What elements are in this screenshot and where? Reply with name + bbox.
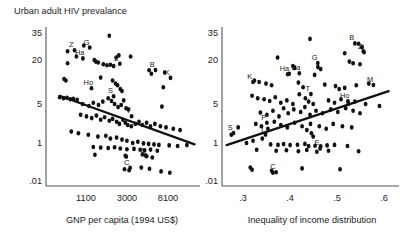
data-point (333, 143, 337, 148)
x-tick-right-3: .6 (380, 193, 388, 203)
hiv-prevalence-figure: Urban adult HIV prevalance352051.0111003… (0, 0, 403, 234)
data-point (303, 142, 307, 147)
data-point (116, 83, 120, 88)
data-point (79, 113, 83, 118)
point-label-right-13: C (270, 162, 276, 171)
data-point (90, 116, 94, 121)
data-point (168, 170, 172, 175)
data-point (254, 122, 258, 127)
data-point (303, 105, 307, 110)
point-label-left-3: Z (114, 54, 119, 63)
data-point (262, 97, 266, 102)
y-tick-left-3: 1 (37, 138, 42, 148)
point-label-left-9: E (141, 146, 146, 155)
point-label-left-2: Ha (75, 48, 85, 57)
data-point (112, 64, 116, 69)
data-point (178, 128, 182, 133)
data-point (69, 129, 73, 134)
data-point (164, 125, 168, 130)
data-point (86, 133, 90, 138)
y-tick-left-1: 20 (32, 55, 42, 65)
data-point (91, 145, 95, 150)
point-label-right-6: M (367, 75, 373, 84)
data-point (272, 120, 276, 125)
data-point (110, 99, 114, 104)
data-point (149, 147, 153, 152)
data-point (300, 166, 304, 171)
data-point (325, 143, 329, 148)
data-point (313, 73, 317, 78)
y-tick-right-0: 35 (208, 28, 218, 38)
data-point (269, 142, 273, 147)
point-label-left-8: T (126, 106, 131, 115)
data-point (271, 108, 275, 113)
data-point (109, 136, 113, 141)
data-point (150, 155, 154, 160)
data-point (315, 149, 319, 154)
data-point (105, 63, 109, 68)
data-point (103, 115, 107, 120)
data-point (111, 78, 115, 83)
data-point (97, 103, 101, 108)
data-point (260, 136, 264, 141)
data-point (301, 85, 305, 90)
data-point (308, 37, 312, 42)
data-point (350, 125, 354, 130)
chart-canvas: Urban adult HIV prevalance352051.0111003… (0, 0, 403, 234)
data-point (304, 96, 308, 101)
data-point (95, 113, 99, 118)
data-point (145, 121, 149, 126)
data-point (297, 149, 301, 154)
point-label-right-1: Zi (358, 42, 365, 51)
x-tick-left-2: 8100 (158, 193, 178, 203)
data-point (120, 89, 124, 94)
data-point (297, 92, 301, 97)
data-point (286, 111, 290, 116)
y-tick-right-2: 5 (213, 99, 218, 109)
data-point (314, 108, 318, 113)
data-point (111, 117, 115, 122)
data-point (113, 145, 117, 150)
data-point (118, 122, 122, 127)
data-point (343, 51, 347, 56)
data-point (378, 104, 382, 109)
x-tick-right-1: .4 (286, 193, 294, 203)
data-point (115, 135, 119, 140)
data-point (77, 131, 81, 136)
data-point (101, 62, 105, 67)
data-point (93, 152, 97, 157)
data-point (64, 78, 68, 83)
data-point (338, 167, 342, 172)
data-point (159, 124, 163, 129)
data-point (91, 101, 95, 106)
data-point (129, 54, 133, 59)
y-tick-right-3: 1 (213, 138, 218, 148)
data-point (358, 62, 362, 67)
data-point (336, 110, 340, 115)
data-point (299, 110, 303, 115)
data-point (167, 143, 171, 148)
point-label-left-6: Ho (84, 78, 93, 87)
point-label-right-7: T (305, 84, 310, 93)
data-point (282, 142, 286, 147)
point-label-right-5: K (247, 72, 252, 81)
data-point (85, 114, 89, 119)
data-point (119, 103, 123, 108)
data-point (155, 149, 159, 154)
data-point (148, 166, 152, 171)
point-label-right-0: B (349, 33, 354, 42)
data-point (311, 102, 315, 107)
data-point (343, 86, 347, 91)
data-point (346, 144, 350, 149)
data-point (285, 98, 289, 103)
point-label-right-4: Za (292, 63, 302, 72)
figure-title: Urban adult HIV prevalance (14, 6, 127, 16)
data-point (142, 141, 146, 146)
data-point (276, 55, 280, 60)
data-point (153, 122, 157, 127)
point-label-left-1: G (84, 38, 90, 47)
data-point (305, 148, 309, 153)
data-point (334, 84, 338, 89)
x-tick-left-0: 1100 (76, 193, 96, 203)
data-point (354, 83, 358, 88)
